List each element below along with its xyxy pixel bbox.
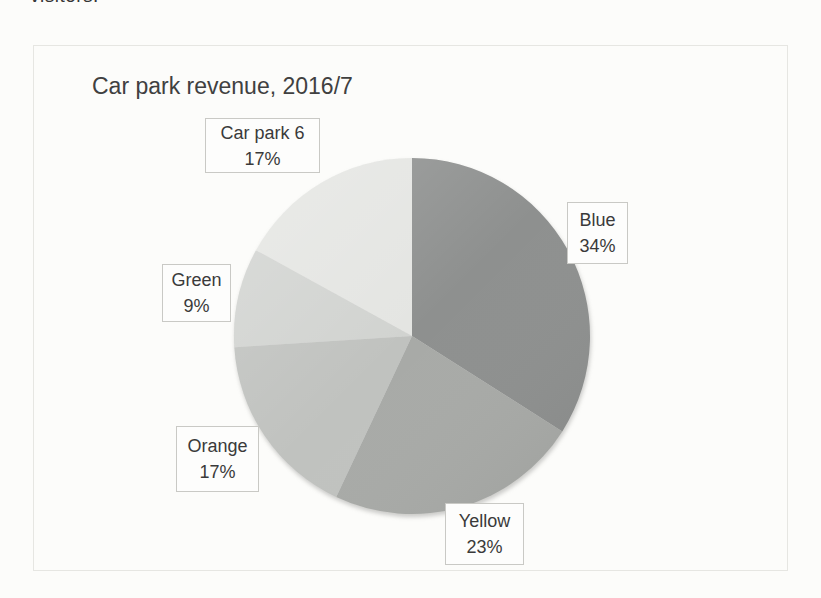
data-label-name: Car park 6	[220, 120, 304, 146]
data-label-value: 9%	[183, 293, 209, 319]
scanned-chart-page: visitors. Car park revenue, 2016/7 Blue …	[0, 0, 821, 598]
data-label-name: Green	[171, 267, 221, 293]
data-label-value: 34%	[579, 233, 615, 259]
data-label-name: Yellow	[459, 508, 510, 534]
data-label-orange: Orange 17%	[176, 426, 259, 492]
data-label-name: Orange	[187, 433, 247, 459]
data-label-value: 17%	[244, 146, 280, 172]
data-label-name: Blue	[579, 207, 615, 233]
data-label-car-park-6: Car park 6 17%	[205, 118, 320, 173]
data-label-green: Green 9%	[162, 264, 231, 322]
data-label-yellow: Yellow 23%	[445, 503, 524, 565]
data-label-value: 17%	[199, 459, 235, 485]
data-label-value: 23%	[466, 534, 502, 560]
scan-light-overlay	[234, 158, 590, 514]
data-label-blue: Blue 34%	[567, 202, 628, 264]
pie-chart	[0, 0, 821, 598]
